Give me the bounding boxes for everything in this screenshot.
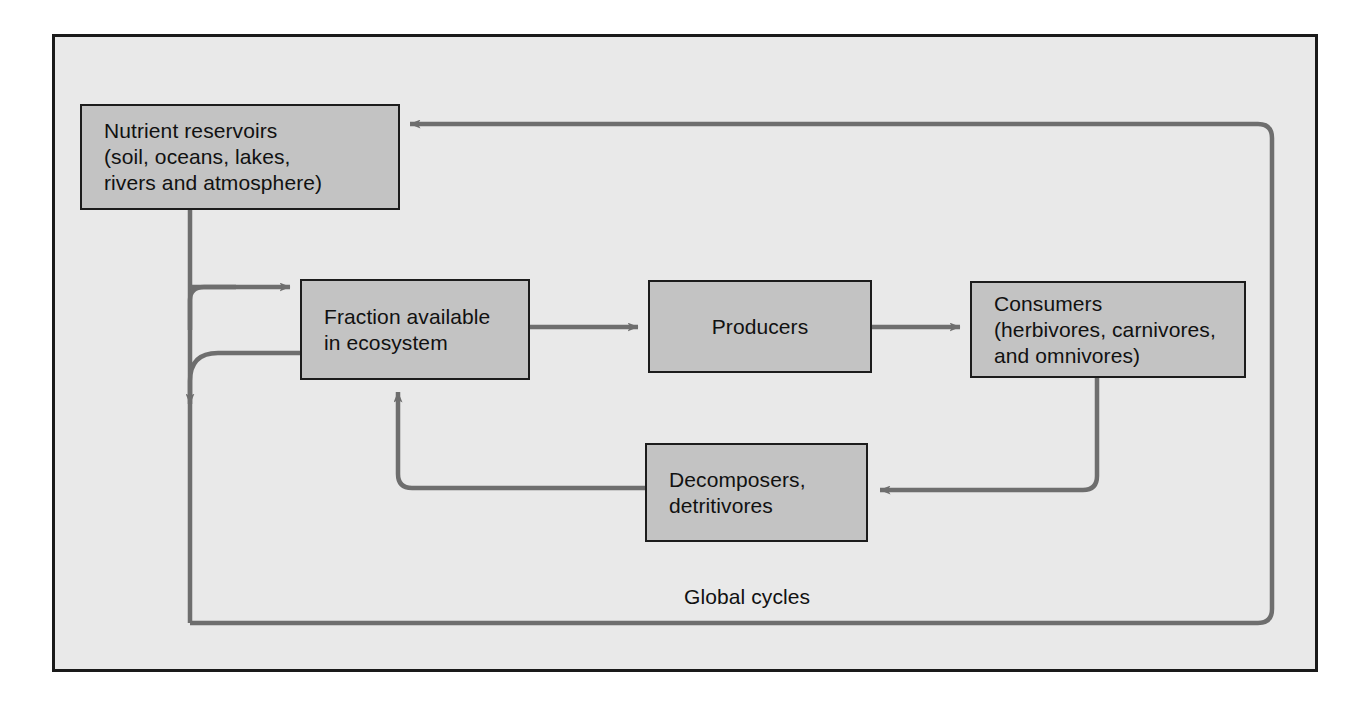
node-consumers-label: Consumers (herbivores, carnivores, and o…: [994, 291, 1216, 369]
node-producers[interactable]: Producers: [648, 280, 872, 373]
diagram-canvas: Nutrient reservoirs (soil, oceans, lakes…: [0, 0, 1367, 708]
node-fraction-available[interactable]: Fraction available in ecosystem: [300, 279, 530, 380]
node-consumers[interactable]: Consumers (herbivores, carnivores, and o…: [970, 281, 1246, 378]
global-cycles-label: Global cycles: [684, 585, 810, 609]
node-decomposers-label: Decomposers, detritivores: [669, 467, 806, 519]
edge-fraction-outflow: [190, 353, 300, 404]
edge-reservoirs-to-fraction-curve: [190, 287, 236, 330]
node-producers-label: Producers: [712, 314, 809, 340]
edge-decomposers-to-fraction: [398, 392, 645, 488]
node-decomposers[interactable]: Decomposers, detritivores: [645, 443, 868, 542]
node-nutrient-reservoirs-label: Nutrient reservoirs (soil, oceans, lakes…: [104, 118, 322, 196]
edge-consumers-to-decomposers: [880, 378, 1097, 490]
node-fraction-available-label: Fraction available in ecosystem: [324, 304, 490, 356]
node-nutrient-reservoirs[interactable]: Nutrient reservoirs (soil, oceans, lakes…: [80, 104, 400, 210]
